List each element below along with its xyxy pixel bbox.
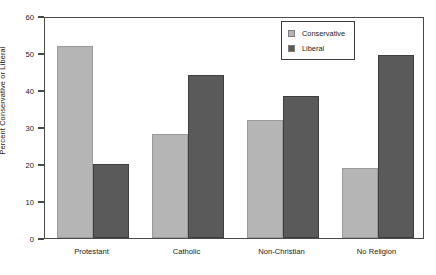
x-axis-label: No Religion [357,247,396,256]
bar-chart: Percent Conservative or Liberal 01020304… [0,0,436,275]
legend-item: Conservative [288,27,345,39]
legend-swatch-icon [288,45,295,52]
y-axis-tick-label: 60 [0,13,34,22]
x-axis-label: Catholic [173,247,200,256]
legend-swatch-icon [288,30,295,37]
x-axis-label: Protestant [74,247,109,256]
bar-conservative-no-religion [342,168,378,238]
y-axis-tick-label: 30 [0,124,34,133]
y-axis-tick-label: 40 [0,87,34,96]
bar-group [45,18,425,238]
legend-label: Conservative [302,29,345,38]
legend: ConservativeLiberal [281,21,355,60]
x-axis-label: Non-Christian [258,247,304,256]
y-axis-tick-label: 20 [0,161,34,170]
bar-liberal-no-religion [378,55,414,238]
y-axis-tick-label: 10 [0,198,34,207]
legend-item: Liberal [288,42,345,54]
plot-area [44,17,424,239]
y-axis-title: Percent Conservative or Liberal [0,0,7,221]
y-axis-tick-label: 50 [0,50,34,59]
legend-label: Liberal [302,44,324,53]
y-axis-tick-label: 0 [0,235,34,244]
